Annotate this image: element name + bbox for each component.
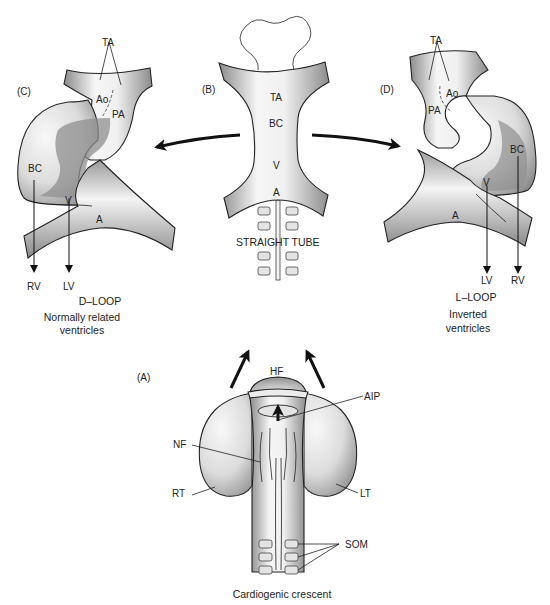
label-lt: LT <box>360 488 371 499</box>
panel-b-tag: (B) <box>202 84 215 95</box>
label-ta-b: TA <box>270 92 282 103</box>
straight-tube-caption: STRAIGHT TUBE <box>236 236 320 248</box>
panel-a-tag: (A) <box>137 372 150 383</box>
label-a-c: A <box>96 214 103 225</box>
panel-d-l-loop: (D) TA Ao PA BC V A LV RV L–LOOP Inverte… <box>380 35 536 334</box>
label-ta-d: TA <box>430 35 442 46</box>
label-ao-c: Ao <box>96 94 109 105</box>
label-rt: RT <box>172 488 185 499</box>
panel-c-tag: (C) <box>17 86 31 97</box>
cardiac-looping-diagram: (C) TA Ao PA BC V A RV LV D–LOOP Normall… <box>0 0 550 605</box>
panel-c-d-loop: (C) TA Ao PA BC V A RV LV D–LOOP Normall… <box>17 37 175 336</box>
d-loop-title: D–LOOP <box>79 295 122 307</box>
label-a-b: A <box>273 187 280 198</box>
label-v-b: V <box>273 160 280 171</box>
arrow-to-l-loop <box>312 135 398 146</box>
panel-a-cardiogenic-crescent: (A) HF AIP NF RT LT SOM Cardiogenic cres… <box>137 352 380 600</box>
head-outline-b <box>240 16 311 70</box>
label-v-d: V <box>483 177 490 188</box>
l-loop-caption-line2: ventricles <box>446 322 490 334</box>
arrow-to-d-loop <box>157 135 240 147</box>
d-loop-caption-line1: Normally related <box>44 311 121 323</box>
arrow-up-left <box>231 352 248 388</box>
label-som: SOM <box>345 539 368 550</box>
label-bc-c: BC <box>28 163 42 174</box>
label-rv-c: RV <box>27 281 41 292</box>
label-aip: AIP <box>364 391 380 402</box>
arrow-up-right <box>307 352 324 388</box>
d-loop-caption-line2: ventricles <box>60 324 104 336</box>
label-nf: NF <box>173 439 186 450</box>
panel-d-tag: (D) <box>380 84 394 95</box>
panel-b-straight-tube: (B) TA BC V A STRAIGHT TUBE <box>157 16 398 280</box>
label-pa-d: PA <box>428 105 441 116</box>
l-loop-caption-line1: Inverted <box>449 308 487 320</box>
label-lv-d: LV <box>481 275 493 286</box>
label-rv-d: RV <box>511 275 525 286</box>
l-loop-title: L–LOOP <box>456 291 497 303</box>
cardiogenic-crescent-caption: Cardiogenic crescent <box>233 588 332 600</box>
label-ta-c: TA <box>102 37 114 48</box>
label-lv-c: LV <box>63 281 75 292</box>
label-pa-c: PA <box>112 109 125 120</box>
label-bc-d: BC <box>510 144 524 155</box>
label-ao-d: Ao <box>446 88 459 99</box>
label-a-d: A <box>452 210 459 221</box>
label-hf: HF <box>270 366 283 377</box>
label-v-c: V <box>65 195 72 206</box>
label-bc-b: BC <box>269 118 283 129</box>
